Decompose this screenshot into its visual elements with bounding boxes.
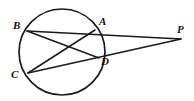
chord-line-c-a <box>28 30 95 73</box>
point-label-a: A <box>99 16 106 27</box>
point-label-c: C <box>11 69 18 80</box>
point-label-p: P <box>177 24 184 35</box>
geometry-figure: B A C D P <box>0 0 194 101</box>
geometry-canvas <box>0 0 194 101</box>
secant-line-b-a-p <box>27 31 181 39</box>
point-label-d: D <box>101 56 109 67</box>
point-label-b: B <box>13 20 20 31</box>
